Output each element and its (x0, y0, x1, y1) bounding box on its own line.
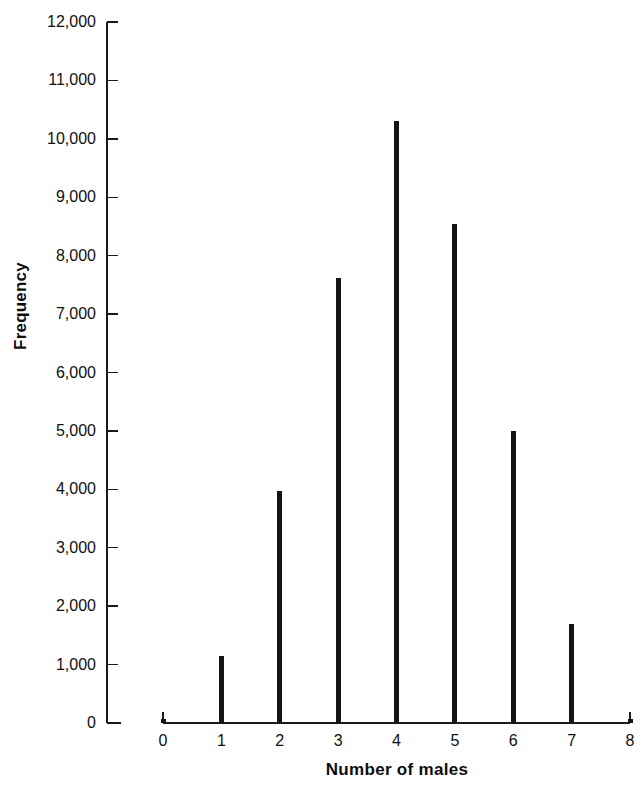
x-tick-label: 7 (557, 732, 587, 750)
x-tick-label: 4 (382, 732, 412, 750)
x-axis-title: Number of males (163, 760, 631, 780)
bar-8 (628, 719, 633, 723)
x-tick-label: 5 (440, 732, 470, 750)
x-tick-label: 3 (323, 732, 353, 750)
frequency-bar-chart: Frequency 01,0002,0003,0004,0005,0006,00… (0, 0, 644, 792)
bar-0 (161, 719, 166, 723)
bar-5 (452, 224, 457, 723)
bar-3 (336, 278, 341, 723)
x-tick-label: 1 (206, 732, 236, 750)
bar-6 (511, 431, 516, 723)
plot-area (0, 0, 644, 792)
axis-lines (107, 22, 630, 723)
bar-2 (277, 491, 282, 723)
x-tick-label: 8 (615, 732, 644, 750)
bar-7 (569, 624, 574, 723)
bars-group (161, 121, 633, 723)
x-tick-label: 0 (148, 732, 178, 750)
bar-4 (394, 121, 399, 723)
x-tick-label: 2 (265, 732, 295, 750)
bar-1 (219, 656, 224, 723)
x-tick-label: 6 (498, 732, 528, 750)
